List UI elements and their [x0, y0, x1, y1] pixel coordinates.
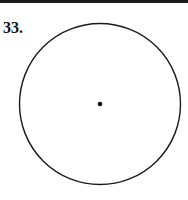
center-point — [98, 102, 103, 107]
circle-figure — [0, 0, 188, 200]
